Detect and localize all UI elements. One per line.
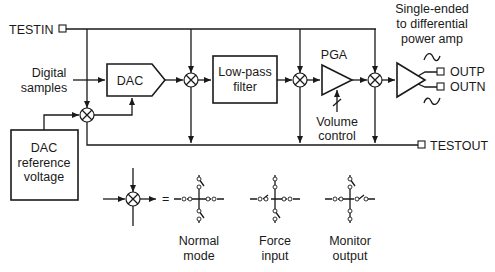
power-amp-label-2: to differential <box>396 17 467 31</box>
testin-pad-icon <box>59 25 66 32</box>
lowpass-filter-block: Low-pass filter <box>213 56 277 103</box>
lowpass-label-2: filter <box>233 80 257 94</box>
testin-pin: TESTIN <box>9 23 66 37</box>
outn-wire <box>418 84 437 87</box>
outp-pad-icon <box>437 68 444 75</box>
legend-normal-label-1: Normal <box>179 234 219 248</box>
legend-force-label-2: input <box>261 249 289 263</box>
test-mux-1 <box>184 73 198 87</box>
pga-label: PGA <box>321 48 348 62</box>
legend-equals: = <box>162 192 169 206</box>
test-mux-3 <box>368 73 382 87</box>
legend-force-label-1: Force <box>259 234 291 248</box>
dac-label: DAC <box>117 74 143 88</box>
testout-pad-icon <box>418 141 425 148</box>
outp-label: OUTP <box>450 65 485 79</box>
dac-reference-label-3: voltage <box>24 170 64 184</box>
outn-pin: OUTN <box>437 80 485 94</box>
switch-normal-mode-icon <box>174 175 224 223</box>
pga-block: PGA <box>321 48 352 95</box>
legend-monitor-label-1: Monitor <box>329 234 371 248</box>
digital-samples-label-1: Digital <box>32 66 67 80</box>
power-amp-label-1: Single-ended <box>395 2 469 16</box>
sine-wave-icon <box>424 54 440 61</box>
volume-control: Volume control <box>316 115 358 143</box>
volume-label-1: Volume <box>316 115 358 129</box>
power-amp-label-3: power amp <box>401 32 463 46</box>
volume-label-2: control <box>318 129 356 143</box>
digital-samples-input: Digital samples <box>21 66 68 95</box>
testout-bus <box>87 122 418 145</box>
outn-pad-icon <box>437 83 444 90</box>
switch-monitor-output-icon <box>325 175 375 223</box>
legend: = Normal mode Force input <box>103 168 375 263</box>
switch-force-input-icon <box>250 175 300 223</box>
legend-normal-label-2: mode <box>183 249 214 263</box>
dac-reference-label-1: DAC <box>31 141 57 155</box>
testin-label: TESTIN <box>9 23 53 37</box>
outp-pin: OUTP <box>437 65 485 79</box>
dac-reference-label-2: reference <box>18 156 71 170</box>
lowpass-label-1: Low-pass <box>218 65 272 79</box>
inverted-sine-wave-icon <box>424 98 440 104</box>
legend-monitor-label-2: output <box>333 249 368 263</box>
ref-mux-to-dac <box>94 98 132 115</box>
ref-mux <box>80 108 94 122</box>
dac-reference-block: DAC reference voltage <box>11 130 78 200</box>
outp-wire <box>418 72 437 76</box>
testout-pin: TESTOUT <box>418 139 488 153</box>
outn-label: OUTN <box>450 80 485 94</box>
dac-block: DAC <box>107 64 165 96</box>
power-amp-triangle-icon <box>397 63 425 97</box>
testout-label: TESTOUT <box>430 139 488 153</box>
digital-samples-label-2: samples <box>21 81 68 95</box>
test-mux-2 <box>293 73 307 87</box>
ref-to-mux <box>44 115 79 130</box>
block-diagram: TESTIN Digital samples DAC Low-pass filt… <box>0 0 495 272</box>
